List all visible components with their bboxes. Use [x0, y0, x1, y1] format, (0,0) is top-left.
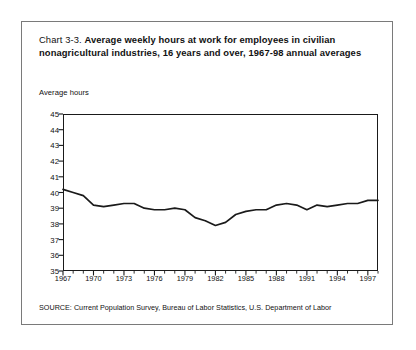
y-tick-label: 44: [50, 125, 59, 134]
data-line-average-weekly-hours: [63, 189, 378, 225]
chart-title-text: Average weekly hours at work for employe…: [39, 34, 361, 58]
x-tick-label: 1997: [360, 274, 376, 283]
y-tick-label: 36: [50, 251, 59, 260]
y-axis-label: Average hours: [39, 88, 89, 97]
x-tick-label: 1982: [207, 274, 223, 283]
x-tick-label: 1979: [177, 274, 193, 283]
chart-title: Chart 3-3. Average weekly hours at work …: [39, 33, 369, 59]
y-tick-label: 45: [50, 110, 59, 119]
x-tick-label: 1976: [146, 274, 162, 283]
x-tick-label: 1970: [85, 274, 101, 283]
y-tick-label: 37: [50, 235, 59, 244]
x-tick-label: 1967: [55, 274, 71, 283]
plot-area: [63, 114, 378, 271]
x-axis-tick-labels: 1967197019731976197919821985198819911994…: [63, 274, 378, 288]
x-tick-label: 1985: [238, 274, 254, 283]
y-tick-label: 41: [50, 172, 59, 181]
x-tick-label: 1988: [268, 274, 284, 283]
chart-frame: Chart 3-3. Average weekly hours at work …: [21, 21, 393, 325]
y-tick-label: 39: [50, 204, 59, 213]
line-chart-svg: [63, 114, 378, 271]
y-tick-label: 40: [50, 188, 59, 197]
y-axis-ticks: [59, 114, 64, 271]
y-tick-label: 42: [50, 157, 59, 166]
x-tick-label: 1994: [329, 274, 345, 283]
x-tick-label: 1991: [299, 274, 315, 283]
chart-number: Chart 3-3.: [39, 34, 82, 45]
screenshot-page: Chart 3-3. Average weekly hours at work …: [0, 0, 416, 350]
y-tick-label: 43: [50, 141, 59, 150]
source-note: SOURCE: Current Population Survey, Burea…: [39, 303, 331, 312]
y-tick-label: 38: [50, 219, 59, 228]
y-axis-tick-labels: 3536373839404142434445: [36, 114, 59, 271]
x-tick-label: 1973: [116, 274, 132, 283]
